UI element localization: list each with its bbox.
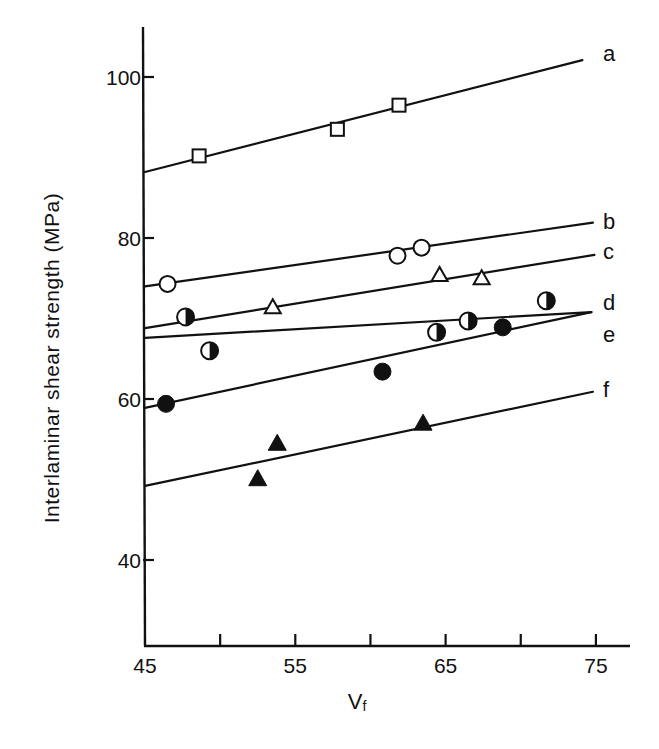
axes — [143, 27, 630, 646]
fit-lines — [145, 60, 594, 486]
series-label-b: b — [603, 211, 615, 233]
marker-d — [201, 342, 218, 359]
series-label-d: d — [603, 292, 615, 314]
y-tick-label: 80 — [118, 228, 141, 249]
fit-line-d — [145, 312, 591, 338]
plot-area — [0, 0, 659, 749]
chart: 40608010045556575abcdef Interlaminar she… — [0, 0, 659, 749]
fit-line-e — [145, 312, 591, 408]
marker-e — [158, 395, 175, 412]
y-tick-label: 60 — [118, 389, 141, 410]
fit-line-c — [145, 255, 594, 328]
x-tick-label: 65 — [434, 655, 457, 676]
marker-a — [331, 123, 344, 136]
marker-d — [428, 324, 445, 341]
marker-e — [374, 363, 391, 380]
marker-a — [393, 99, 406, 112]
marker-f — [249, 470, 267, 486]
series-label-f: f — [603, 379, 609, 401]
marker-a — [193, 149, 206, 162]
series-label-a: a — [603, 43, 615, 65]
marker-b — [390, 248, 406, 264]
data-markers — [158, 99, 555, 486]
series-label-c: c — [603, 241, 614, 263]
marker-b — [414, 240, 430, 256]
y-axis-line — [143, 27, 145, 646]
fit-line-f — [145, 392, 593, 486]
x-tick-label: 55 — [284, 655, 307, 676]
series-label-e: e — [603, 324, 615, 346]
x-tick-label: 45 — [133, 655, 156, 676]
fit-line-a — [145, 60, 582, 172]
x-tick-label: 75 — [584, 655, 607, 676]
y-axis-label: Interlaminar shear strength (MPa) — [40, 193, 64, 523]
marker-e — [494, 319, 511, 336]
y-tick-label: 40 — [118, 550, 141, 571]
x-axis-label: Vf — [348, 689, 367, 715]
fit-line-b — [145, 223, 593, 287]
marker-d — [177, 308, 194, 325]
marker-f — [414, 414, 432, 430]
marker-b — [160, 276, 176, 292]
marker-d — [538, 292, 555, 309]
marker-c — [432, 267, 448, 281]
marker-d — [460, 312, 477, 329]
x-axis-label-main: V — [348, 689, 363, 714]
x-axis-label-sub: f — [362, 698, 366, 714]
marker-f — [268, 434, 286, 450]
y-tick-label: 100 — [106, 67, 141, 88]
